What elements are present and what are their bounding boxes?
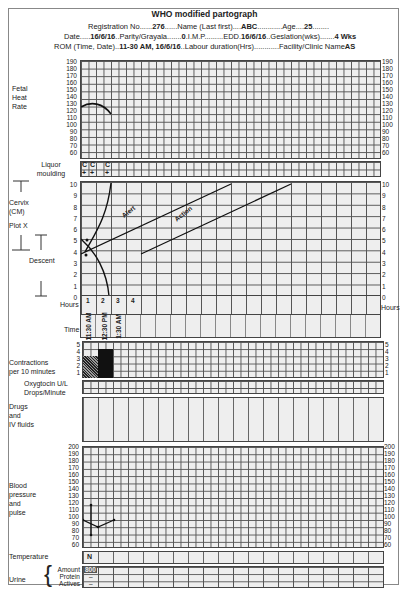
rom-value[interactable]: 11-30 AM, 16/6/16 — [119, 42, 180, 51]
bp-label-line: pressure — [9, 490, 36, 499]
contraction-bar-mild — [83, 356, 98, 378]
fhr-grid[interactable] — [80, 60, 381, 159]
contractions-grid[interactable] — [82, 341, 384, 378]
edd-value[interactable]: 16/6/16 — [241, 32, 266, 41]
contractions-label-line: per 10 minutes — [9, 367, 55, 376]
facility-value[interactable]: AS — [345, 42, 355, 51]
brace-icon: { — [44, 562, 52, 586]
tick: 60 — [57, 149, 77, 156]
name-value[interactable]: ABC — [241, 22, 257, 31]
moulding-entry: + — [90, 169, 94, 176]
time-value: 1:30 AM — [115, 314, 122, 339]
liquor-grid[interactable]: C + C + C + — [80, 161, 381, 177]
tick: 100 — [384, 513, 404, 520]
gestation-value[interactable]: 4 Wks — [335, 32, 357, 41]
tick: 130 — [57, 100, 77, 107]
tick: 4 — [382, 247, 402, 258]
urine-sublabels: Amount Protein Actives — [54, 566, 80, 587]
liquor-label-line: Liquor — [26, 160, 76, 169]
tick: 3 — [62, 355, 80, 362]
age-label: Age — [282, 22, 295, 31]
tick: 150 — [384, 478, 404, 485]
tick: 110 — [382, 114, 402, 121]
lmp-label: I.M.P. — [188, 32, 207, 41]
age-value[interactable]: 25 — [304, 22, 312, 31]
hour-value: 3 — [116, 297, 120, 304]
contractions-axis-left: 5 4 3 2 1 — [62, 341, 80, 376]
moulding-entry: + — [82, 169, 86, 176]
tick: 180 — [384, 457, 404, 464]
tick: 8 — [382, 202, 402, 213]
time-row[interactable]: 11:30 AM 12:30 PM 1:30 AM — [80, 314, 381, 338]
tick: 190 — [59, 450, 79, 457]
tick: 1 — [57, 281, 77, 292]
header-row-1: Registration No......276......Name (Last… — [88, 22, 329, 31]
fhr-label-line: Heat — [12, 93, 28, 102]
tick: 100 — [59, 513, 79, 520]
tick: 60 — [59, 541, 79, 548]
tick: 90 — [384, 520, 404, 527]
tick: 110 — [59, 506, 79, 513]
tick: 170 — [57, 72, 77, 79]
cervix-grid[interactable]: Alert Action — [80, 181, 381, 296]
tick: 160 — [57, 79, 77, 86]
tick: 6 — [57, 224, 77, 235]
header-row-3: ROM (Time, Date)..11-30 AM, 16/6/16..Lab… — [54, 42, 355, 51]
tick: 140 — [59, 485, 79, 492]
cervix-axis-right: 10 9 8 7 6 5 4 3 2 1 0 — [382, 179, 402, 303]
fhr-label-line: Rate — [12, 102, 28, 111]
bp-grid[interactable] — [82, 446, 384, 548]
tick: 80 — [382, 135, 402, 142]
oxytocin-label-line: Oxygtocin U/L — [24, 379, 68, 388]
tick: 5 — [62, 341, 80, 348]
tick: 170 — [384, 464, 404, 471]
urine-label: Urine — [9, 575, 26, 584]
urine-actives-label: Actives — [54, 580, 80, 587]
tick: 4 — [57, 247, 77, 258]
oxytocin-label-line: Drops/Minute — [24, 388, 68, 397]
tick: 1 — [382, 281, 402, 292]
tick: 1 — [385, 369, 405, 376]
drugs-grid[interactable] — [82, 397, 384, 442]
parity-value[interactable]: 0 — [182, 32, 186, 41]
urine-grid[interactable]: 800 – – — [82, 566, 384, 588]
tick: 3 — [382, 258, 402, 269]
tick: 80 — [384, 527, 404, 534]
tick: 70 — [384, 534, 404, 541]
tick: 90 — [57, 128, 77, 135]
plot-x-label: Plot X — [9, 221, 28, 230]
date-value[interactable]: 16/6/16 — [90, 32, 115, 41]
tick: 180 — [57, 65, 77, 72]
tick: 3 — [57, 258, 77, 269]
tick: 2 — [385, 362, 405, 369]
descent-label: Descent — [29, 256, 55, 265]
temperature-label: Temperature — [9, 552, 48, 561]
temperature-grid[interactable]: N — [82, 551, 384, 564]
tick: 60 — [382, 149, 402, 156]
tick: 180 — [59, 457, 79, 464]
tick: 200 — [384, 443, 404, 450]
tick: 130 — [384, 492, 404, 499]
tick: 170 — [382, 72, 402, 79]
hour-value: 2 — [101, 297, 105, 304]
alert-line — [81, 184, 231, 254]
tick: 130 — [59, 492, 79, 499]
tick: 2 — [382, 269, 402, 280]
tick: 80 — [59, 527, 79, 534]
oxytocin-grid[interactable] — [82, 380, 384, 394]
edd-label: EDD — [223, 32, 239, 41]
labour-duration-label: Labour duration(Hrs) — [185, 42, 254, 51]
tick: 90 — [382, 128, 402, 135]
action-line — [141, 184, 291, 254]
bp-axis-left: 200 190 180 170 160 150 140 130 120 110 … — [59, 443, 79, 548]
tick: 8 — [57, 202, 77, 213]
registration-value[interactable]: 276 — [152, 22, 165, 31]
name-label: Name (Last first) — [177, 22, 232, 31]
urine-amount-value: 800 — [84, 566, 97, 573]
hour-value: 4 — [131, 297, 135, 304]
tick: 1 — [62, 369, 80, 376]
tick: 160 — [382, 79, 402, 86]
tick: 4 — [385, 348, 405, 355]
fhr-axis-left: 190 180 170 160 150 140 130 120 110 100 … — [57, 58, 77, 156]
bp-pulse-plot — [83, 447, 385, 549]
